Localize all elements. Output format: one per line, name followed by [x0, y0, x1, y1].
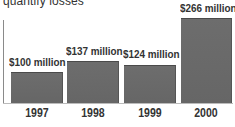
value-label-1999: $124 million	[123, 48, 180, 60]
x-tick-2000: 2000	[184, 106, 228, 120]
bar-2000	[181, 18, 232, 103]
value-label-1998: $137 million	[66, 45, 123, 57]
y-axis-line	[3, 20, 4, 104]
value-label-2000: $266 million	[180, 2, 235, 14]
bar-1997	[11, 72, 63, 103]
x-axis-baseline	[3, 103, 233, 104]
bar-1998	[67, 61, 119, 103]
x-tick-1998: 1998	[71, 106, 115, 120]
chart-subtitle: quantify losses	[3, 0, 84, 8]
x-tick-1999: 1999	[128, 106, 172, 120]
bar-1999	[124, 65, 176, 103]
x-tick-1997: 1997	[15, 106, 59, 120]
value-label-1997: $100 million	[9, 56, 66, 68]
